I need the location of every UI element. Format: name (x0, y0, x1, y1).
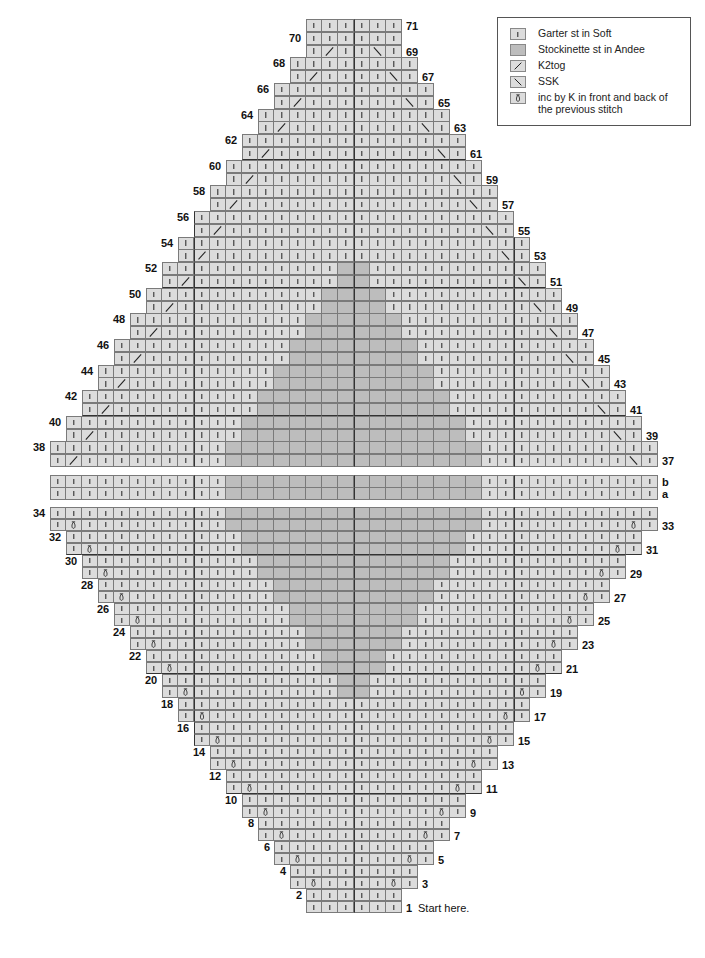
stockinette-stitch (386, 543, 402, 555)
legend-item-garter: Garter st in Soft (510, 27, 683, 40)
garter-stitch (514, 614, 530, 626)
garter-stitch (418, 185, 434, 198)
garter-stitch (594, 416, 610, 429)
stockinette-stitch (338, 626, 354, 638)
stockinette-stitch (354, 365, 370, 378)
stockinette-stitch (370, 365, 386, 378)
stockinette-stitch (290, 555, 306, 567)
garter-stitch (482, 519, 498, 531)
stockinette-stitch (322, 591, 338, 603)
garter-stitch (210, 662, 226, 674)
garter-stitch (354, 173, 370, 186)
garter-stitch (194, 403, 210, 416)
garter-stitch (466, 674, 482, 686)
garter-stitch (482, 185, 498, 198)
stockinette-stitch (226, 507, 242, 519)
garter-stitch (418, 650, 434, 662)
garter-stitch (370, 134, 386, 147)
garter-stitch (226, 403, 242, 416)
garter-stitch (498, 416, 514, 429)
garter-stitch (114, 416, 130, 429)
stockinette-stitch (322, 650, 338, 662)
garter-stitch (402, 806, 418, 818)
garter-stitch (434, 237, 450, 250)
row-number-label: 50 (129, 288, 141, 300)
stockinette-stitch (354, 416, 370, 429)
stockinette-stitch (306, 487, 322, 500)
garter-stitch (402, 698, 418, 710)
garter-stitch (578, 579, 594, 591)
row-number-label: 45 (598, 353, 610, 365)
garter-stitch (514, 674, 530, 686)
stockinette-stitch (322, 638, 338, 650)
garter-stitch (258, 758, 274, 770)
garter-stitch (386, 249, 402, 262)
k2tog-stitch (162, 301, 178, 314)
garter-stitch (162, 288, 178, 301)
garter-stitch (178, 262, 194, 275)
garter-stitch (290, 734, 306, 746)
garter-stitch (338, 817, 354, 829)
garter-stitch (130, 638, 146, 650)
garter-stitch (162, 603, 178, 615)
stockinette-stitch (386, 352, 402, 365)
row-number-label: 23 (582, 639, 594, 651)
garter-stitch (530, 579, 546, 591)
garter-stitch (466, 638, 482, 650)
garter-stitch (546, 288, 562, 301)
garter-stitch (210, 211, 226, 224)
garter-stitch (226, 555, 242, 567)
garter-stitch (450, 377, 466, 390)
row-number-label: 51 (550, 276, 562, 288)
garter-stitch (210, 507, 226, 519)
stockinette-stitch (354, 507, 370, 519)
garter-stitch (514, 326, 530, 339)
garter-stitch (354, 794, 370, 806)
k2tog-stitch (66, 454, 82, 467)
stockinette-stitch (386, 626, 402, 638)
stockinette-stitch (338, 352, 354, 365)
stockinette-stitch (386, 487, 402, 500)
garter-stitch (482, 275, 498, 288)
garter-stitch (434, 109, 450, 122)
garter-stitch (418, 710, 434, 722)
garter-stitch (578, 519, 594, 531)
garter-stitch (210, 185, 226, 198)
stockinette-stitch (258, 390, 274, 403)
garter-stitch (146, 487, 162, 500)
garter-stitch (434, 770, 450, 782)
garter-stitch (338, 853, 354, 865)
garter-stitch (450, 555, 466, 567)
garter-stitch (578, 441, 594, 454)
garter-stitch (450, 650, 466, 662)
garter-stitch (178, 579, 194, 591)
row-number-label: 15 (518, 735, 530, 747)
stockinette-stitch (338, 288, 354, 301)
stockinette-stitch (338, 441, 354, 454)
stockinette-stitch (338, 390, 354, 403)
garter-stitch (562, 507, 578, 519)
row-number-label: 58 (193, 185, 205, 197)
stockinette-stitch (354, 262, 370, 275)
stockinette-stitch (274, 507, 290, 519)
garter-stitch (146, 454, 162, 467)
stockinette-stitch (322, 301, 338, 314)
garter-stitch (466, 543, 482, 555)
stockinette-stitch (386, 579, 402, 591)
row-number-label: 69 (406, 46, 418, 58)
garter-stitch (194, 365, 210, 378)
garter-stitch (50, 519, 66, 531)
garter-stitch (226, 603, 242, 615)
stockinette-stitch (386, 429, 402, 442)
garter-stitch (274, 674, 290, 686)
stockinette-stitch (402, 555, 418, 567)
garter-stitch (210, 390, 226, 403)
garter-stitch (338, 746, 354, 758)
stockinette-stitch (354, 275, 370, 288)
stockinette-stitch (370, 429, 386, 442)
garter-stitch (354, 121, 370, 134)
stockinette-stitch (322, 555, 338, 567)
stockinette-stitch (226, 519, 242, 531)
garter-stitch (146, 301, 162, 314)
stockinette-stitch (354, 519, 370, 531)
